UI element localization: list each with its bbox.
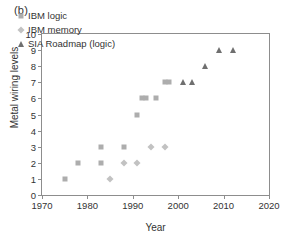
y-tick-label: 3: [31, 141, 36, 152]
legend-item: IBM logic: [14, 10, 115, 21]
legend-label: IBM logic: [28, 10, 67, 21]
x-tick-label: 1980: [77, 200, 98, 211]
data-point-square: [99, 160, 104, 165]
legend-item: IBM memory: [14, 24, 115, 35]
data-point-square: [76, 160, 81, 165]
data-point-diamond: [161, 143, 168, 150]
data-point-triangle: [189, 79, 195, 85]
x-axis-title: Year: [41, 222, 270, 233]
x-tick: [224, 195, 225, 199]
chart-legend: IBM logicIBM memorySIA Roadmap (logic): [14, 10, 115, 49]
data-layer: [42, 34, 269, 195]
y-tick-label: 8: [31, 61, 36, 72]
y-tick: [38, 179, 42, 180]
y-tick: [38, 98, 42, 99]
data-point-square: [144, 96, 149, 101]
data-point-triangle: [230, 47, 236, 53]
y-tick-label: 1: [31, 173, 36, 184]
data-point-diamond: [147, 143, 154, 150]
data-point-triangle: [202, 63, 208, 69]
y-tick: [38, 82, 42, 83]
legend-marker-triangle-icon: [14, 38, 28, 49]
x-tick-label: 2010: [213, 200, 234, 211]
x-tick-label: 2000: [168, 200, 189, 211]
legend-marker-diamond-icon: [14, 24, 28, 35]
x-tick-label: 1970: [31, 200, 52, 211]
y-tick: [38, 66, 42, 67]
figure-panel-b: (b) Metal wiring levels Year 01234567891…: [0, 0, 290, 245]
x-tick: [178, 195, 179, 199]
x-tick: [87, 195, 88, 199]
data-point-diamond: [107, 175, 114, 182]
x-tick-label: 2020: [258, 200, 279, 211]
y-tick-label: 5: [31, 109, 36, 120]
data-point-diamond: [134, 159, 141, 166]
y-tick: [38, 131, 42, 132]
y-tick: [38, 147, 42, 148]
legend-label: IBM memory: [28, 24, 82, 35]
y-tick-label: 4: [31, 125, 36, 136]
y-tick-label: 2: [31, 157, 36, 168]
plot-area: 012345678910197019801990200020102020: [41, 33, 270, 196]
y-tick: [38, 115, 42, 116]
x-tick: [42, 195, 43, 199]
data-point-triangle: [216, 47, 222, 53]
data-point-square: [135, 112, 140, 117]
x-tick: [133, 195, 134, 199]
legend-marker-square-icon: [14, 10, 28, 21]
y-tick-label: 7: [31, 77, 36, 88]
data-point-square: [99, 144, 104, 149]
data-point-diamond: [120, 159, 127, 166]
data-point-square: [121, 144, 126, 149]
x-tick-label: 1990: [122, 200, 143, 211]
y-tick: [38, 50, 42, 51]
data-point-square: [167, 80, 172, 85]
legend-item: SIA Roadmap (logic): [14, 38, 115, 49]
data-point-square: [153, 96, 158, 101]
data-point-square: [62, 176, 67, 181]
x-tick: [269, 195, 270, 199]
y-tick-label: 0: [31, 190, 36, 201]
y-tick-label: 6: [31, 93, 36, 104]
y-tick: [38, 163, 42, 164]
data-point-triangle: [180, 79, 186, 85]
legend-label: SIA Roadmap (logic): [28, 38, 115, 49]
